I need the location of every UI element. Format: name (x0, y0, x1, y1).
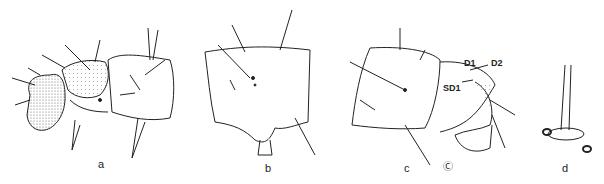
panel-label-c: c (404, 162, 410, 174)
panel-label-d: d (562, 162, 568, 174)
panel-a-drawing (12, 28, 174, 158)
panel-label-b: b (265, 162, 271, 174)
annotation-sd1: SD1 (443, 83, 461, 93)
panel-b-drawing (205, 10, 315, 155)
panel-label-a: a (98, 158, 104, 170)
figure: a b c d D1 D2 SD1 Ⓒ (0, 0, 604, 184)
figure-drawing (0, 0, 604, 184)
panel-c-drawing (350, 28, 515, 165)
annotation-extra: Ⓒ (443, 158, 453, 173)
panel-d-drawing (543, 65, 591, 152)
annotation-d2: D2 (491, 58, 503, 68)
annotation-d1: D1 (464, 58, 476, 68)
